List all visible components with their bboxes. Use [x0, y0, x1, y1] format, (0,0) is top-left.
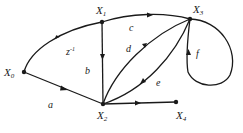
gain-e: e	[156, 77, 161, 88]
arrow-x1-x2	[100, 54, 105, 60]
edge-x3-x2	[103, 19, 190, 104]
edge-x2-x3	[103, 19, 190, 104]
label-x4: X4	[175, 109, 187, 123]
gain-d: d	[126, 43, 132, 54]
label-x3: X3	[192, 3, 204, 17]
arrow-x3-x2	[140, 78, 146, 84]
edge-x0-x1	[24, 22, 102, 72]
edge-x1-x3	[102, 14, 190, 22]
gain-z-inverse: z-1	[65, 46, 75, 57]
label-x2: X2	[96, 109, 108, 123]
gain-a: a	[48, 99, 53, 110]
node-x2	[101, 102, 105, 106]
node-x0	[22, 70, 26, 74]
gain-f: f	[196, 48, 200, 59]
arrow-x0-x2	[60, 86, 68, 91]
arrow-x2-x4	[135, 101, 141, 106]
node-x3	[188, 17, 192, 21]
signal-flow-graph: X0 X1 X2 X3 X4 z-1 a b c d e f	[0, 0, 243, 133]
gain-b: b	[85, 65, 90, 76]
edge-x3-self-loop	[187, 19, 232, 85]
arrow-x1-x3	[147, 13, 153, 18]
label-x0: X0	[3, 66, 15, 80]
gain-c: c	[129, 22, 134, 33]
edge-x1-x2	[102, 22, 103, 104]
label-x1: X1	[95, 4, 106, 18]
node-x4	[174, 100, 178, 104]
node-x1	[100, 20, 104, 24]
